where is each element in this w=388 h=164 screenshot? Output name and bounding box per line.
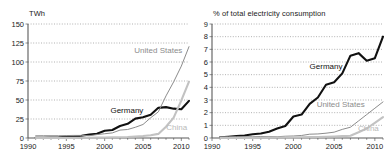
y-tick-label-2: 2 [204,108,208,117]
y-tick-label-1: 1 [204,121,208,130]
chart-svg-left: 025507510012515019901995200020052010Unit… [0,0,194,164]
y-tick-label-125: 125 [11,39,24,48]
x-tick-label-2000: 2000 [96,142,113,151]
y-tick-label-6: 6 [204,58,208,67]
chart-svg-right: 012345678919901995200020052010GermanyUni… [194,0,388,164]
y-tick-label-9: 9 [204,20,208,29]
y-tick-label-5: 5 [204,70,208,79]
x-tick-label-2010: 2010 [173,142,190,151]
y-tick-label-7: 7 [204,45,208,54]
x-tick-label-1990: 1990 [204,142,221,151]
series-label-germany: Germany [310,62,343,71]
x-tick-label-1990: 1990 [20,142,37,151]
y-tick-label-3: 3 [204,96,208,105]
y-tick-label-8: 8 [204,32,208,41]
chart-panel-percent: % of total electricity consumption 01234… [194,0,388,164]
series-label-germany: Germany [110,106,143,115]
x-tick-label-2005: 2005 [326,142,343,151]
y-tick-label-25: 25 [16,115,24,124]
y-tick-label-100: 100 [11,58,24,67]
series-line-germany [220,37,383,138]
x-tick-label-2010: 2010 [367,142,384,151]
y-tick-label-50: 50 [16,96,24,105]
series-label-united-states: United States [134,46,182,55]
series-label-united-states: United States [317,100,365,109]
x-tick-label-2000: 2000 [285,142,302,151]
chart-panel-twh: TWh 025507510012515019901995200020052010… [0,0,194,164]
series-label-china: China [166,123,187,132]
y-tick-label-150: 150 [11,20,24,29]
x-tick-label-2005: 2005 [135,142,152,151]
series-label-china: China [358,124,379,133]
y-tick-label-4: 4 [204,83,208,92]
dual-line-chart-figure: TWh 025507510012515019901995200020052010… [0,0,388,164]
x-tick-label-1995: 1995 [58,142,75,151]
y-tick-label-75: 75 [16,77,24,86]
x-tick-label-1995: 1995 [244,142,261,151]
